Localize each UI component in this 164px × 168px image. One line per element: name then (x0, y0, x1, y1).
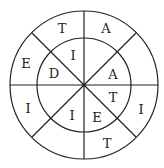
inner-ring-letter: I (69, 109, 74, 122)
wheel-diagram (0, 0, 164, 168)
inner-ring-letter: A (108, 68, 117, 81)
inner-ring-letter: D (49, 67, 59, 80)
outer-ring-letter: A (101, 22, 110, 35)
outer-ring-letter: E (21, 57, 31, 70)
inner-ring-letter: I (70, 49, 75, 62)
inner-ring-letter: T (109, 91, 118, 104)
outer-ring-letter: I (138, 103, 143, 116)
center-dot (82, 83, 85, 86)
outer-ring-letter: I (25, 102, 30, 115)
outer-ring-letter: T (58, 22, 67, 35)
inner-ring-letter: E (92, 111, 102, 124)
outer-ring-letter: T (103, 137, 112, 150)
